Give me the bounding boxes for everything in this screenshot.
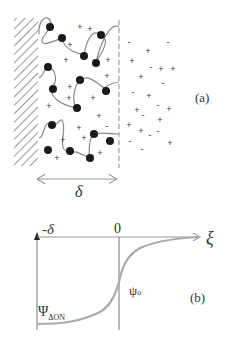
svg-text:+: + bbox=[87, 24, 92, 34]
svg-text:+: + bbox=[129, 56, 134, 66]
svg-text:+: + bbox=[138, 126, 143, 136]
svg-text:+: + bbox=[158, 64, 163, 74]
svg-text:+: + bbox=[67, 40, 72, 50]
svg-text:-: - bbox=[157, 126, 160, 136]
svg-text:-: - bbox=[149, 130, 152, 140]
svg-text:+: + bbox=[96, 111, 101, 121]
svg-text:-: - bbox=[150, 62, 153, 72]
psi-don-main: Ψ bbox=[38, 304, 48, 319]
psi-zero-main: ψ bbox=[129, 283, 137, 298]
svg-text:-: - bbox=[132, 87, 135, 97]
axis-zero-label: 0 bbox=[114, 221, 121, 237]
psi-zero-sub: o bbox=[137, 288, 141, 297]
svg-text:+: + bbox=[146, 91, 151, 101]
svg-text:-: - bbox=[142, 110, 145, 120]
y-axis-arrowhead-icon bbox=[34, 232, 40, 240]
svg-text:+: + bbox=[66, 93, 71, 103]
svg-text:+: + bbox=[90, 93, 95, 103]
svg-text:+: + bbox=[60, 135, 65, 145]
svg-text:+: + bbox=[166, 104, 171, 114]
psi-don-sub: ΔON bbox=[48, 313, 65, 322]
svg-text:+: + bbox=[105, 55, 110, 65]
svg-text:+: + bbox=[157, 115, 162, 125]
thickness-symbol: δ bbox=[75, 183, 82, 201]
wall-hatch bbox=[14, 18, 38, 166]
svg-text:+: + bbox=[46, 101, 51, 111]
svg-text:-: - bbox=[141, 144, 144, 154]
axis-left-label: -δ bbox=[42, 221, 54, 238]
svg-text:+: + bbox=[170, 64, 175, 74]
svg-text:+: + bbox=[104, 71, 109, 81]
svg-text:+: + bbox=[81, 133, 86, 143]
svg-text:-: - bbox=[129, 136, 132, 146]
svg-text:+: + bbox=[97, 148, 102, 158]
svg-text:+: + bbox=[76, 123, 81, 133]
polymer-beads bbox=[44, 23, 114, 162]
svg-text:+: + bbox=[63, 55, 68, 65]
svg-text:-: - bbox=[106, 121, 109, 131]
panel-a-label: (a) bbox=[195, 90, 209, 106]
svg-text:+: + bbox=[138, 72, 143, 82]
svg-text:+: + bbox=[134, 105, 139, 115]
svg-text:-: - bbox=[128, 37, 131, 47]
svg-text:+: + bbox=[126, 120, 131, 130]
psi-don-label: ΨΔON bbox=[38, 304, 65, 320]
axis-x-label: ξ bbox=[206, 228, 214, 249]
svg-text:+: + bbox=[167, 138, 172, 148]
svg-text:+: + bbox=[67, 82, 72, 92]
svg-text:+: + bbox=[77, 22, 82, 32]
svg-text:-: - bbox=[167, 37, 170, 47]
psi-zero-label: ψo bbox=[129, 283, 141, 299]
svg-text:-: - bbox=[157, 100, 160, 110]
svg-text:+: + bbox=[145, 46, 150, 56]
panel-b-label: (b) bbox=[190, 290, 205, 306]
svg-text:-: - bbox=[162, 78, 165, 88]
svg-text:+: + bbox=[54, 153, 59, 163]
